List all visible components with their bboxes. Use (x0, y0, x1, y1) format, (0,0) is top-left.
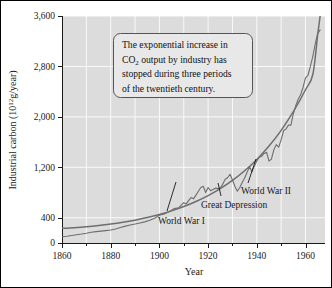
x-axis-tick-label: 1960 (296, 251, 315, 261)
callout-line-2-prefix: CO (122, 54, 135, 65)
x-axis-tick-label: 1920 (199, 251, 218, 261)
x-axis-tick-label: 1860 (53, 251, 72, 261)
y-axis-title-suffix: g/year) (7, 70, 19, 98)
x-axis-tick-label: 1900 (150, 251, 169, 261)
y-axis-title-prefix: Industrial carbon (10 (7, 106, 19, 190)
chart-figure: 04001,2002,0002,8003,600 186018801900192… (0, 0, 332, 288)
callout-line-2-suffix: output by industry has (139, 54, 227, 65)
y-axis-title: Industrial carbon (1012g/year) (7, 70, 20, 189)
industrial-carbon-line-chart: 04001,2002,0002,8003,600 186018801900192… (0, 0, 332, 288)
x-axis-tick-label: 1880 (101, 251, 120, 261)
world-war-1-label: World War I (158, 216, 205, 226)
y-axis-tick-label: 1,200 (34, 163, 56, 173)
callout-line-4: of the twentieth century. (122, 83, 215, 94)
y-axis-tick-label: 2,000 (34, 112, 56, 122)
x-axis-title: Year (185, 266, 204, 277)
y-axis-tick-label: 2,800 (34, 62, 56, 72)
callout-annotation: The exponential increase in CO2 output b… (114, 34, 253, 98)
y-axis-tick-label: 3,600 (34, 11, 56, 21)
great-depression-label: Great Depression (201, 200, 267, 210)
y-axis-tick-label: 400 (41, 213, 56, 223)
world-war-2-label: World War II (241, 186, 291, 196)
callout-line-1: The exponential increase in (122, 39, 228, 50)
y-axis-tick-label: 0 (50, 238, 55, 248)
callout-line-3: stopped during three periods (122, 68, 232, 79)
x-axis-tick-label: 1940 (247, 251, 266, 261)
